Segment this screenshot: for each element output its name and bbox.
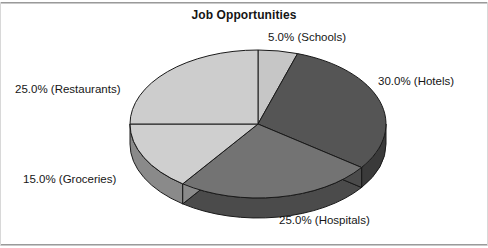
pie-slice-restaurants (130, 50, 258, 124)
slice-label-groceries: 15.0% (Groceries) (23, 173, 116, 185)
pie-chart-figure: Job Opportunities 5.0% (Schools) 30.0% (… (0, 0, 488, 248)
slice-label-schools: 5.0% (Schools) (268, 31, 346, 43)
slice-label-hospitals: 25.0% (Hospitals) (279, 214, 370, 226)
slice-label-restaurants: 25.0% (Restaurants) (15, 83, 120, 95)
slice-label-hotels: 30.0% (Hotels) (378, 75, 454, 87)
pie-stage (0, 0, 488, 248)
pie-chart-svg (0, 0, 488, 248)
pie-slice-tops (130, 50, 386, 198)
